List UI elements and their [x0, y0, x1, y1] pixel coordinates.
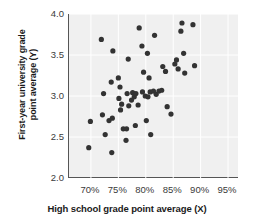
y-axis-label: First-year university grade point averag…: [17, 10, 38, 160]
data-point: [176, 66, 181, 71]
data-point: [133, 123, 138, 128]
data-point: [124, 126, 129, 131]
data-point: [182, 70, 187, 75]
data-point: [146, 75, 151, 80]
y-axis-tick-label: 2.0: [38, 173, 64, 183]
data-point: [148, 132, 153, 137]
data-point: [126, 103, 131, 108]
scatter-plot-figure: First-year university grade point averag…: [0, 0, 254, 223]
data-point: [145, 94, 150, 99]
data-point: [103, 132, 108, 137]
data-point: [101, 91, 106, 96]
x-axis-tick-label: 95%: [210, 184, 244, 195]
data-point: [137, 25, 142, 30]
data-point: [126, 57, 131, 62]
y-axis-tick-label: 3.5: [38, 50, 64, 60]
data-point: [136, 102, 141, 107]
y-axis-tick-label: 4.0: [38, 9, 64, 19]
data-point: [123, 138, 128, 143]
data-point: [168, 111, 173, 116]
y-axis-tick-label: 3.0: [38, 91, 64, 101]
data-point: [125, 91, 130, 96]
data-point: [179, 20, 184, 25]
data-point: [190, 22, 195, 27]
data-point: [181, 51, 186, 56]
x-axis-tick-labels: 70%75%80%85%90%95%: [0, 184, 254, 198]
data-point: [165, 104, 170, 109]
x-axis-label: High school grade point average (X): [0, 203, 254, 214]
data-points: [86, 20, 197, 155]
data-point: [192, 63, 197, 68]
scatter-points-layer: [69, 14, 239, 178]
data-point: [174, 57, 179, 62]
plot-area: [68, 14, 238, 178]
y-axis-tick-label: 2.5: [38, 132, 64, 142]
data-point: [110, 116, 115, 121]
data-point: [145, 51, 150, 56]
data-point: [88, 119, 93, 124]
data-point: [116, 96, 121, 101]
data-point: [116, 75, 121, 80]
data-point: [117, 84, 122, 89]
data-point: [100, 112, 105, 117]
data-point: [109, 150, 114, 155]
gridlines: [69, 14, 239, 178]
data-point: [110, 48, 115, 53]
data-point: [160, 64, 165, 69]
data-point: [159, 88, 164, 93]
data-point: [109, 79, 114, 84]
data-point: [144, 118, 149, 123]
data-point: [141, 70, 146, 75]
data-point: [86, 145, 91, 150]
data-point: [163, 69, 168, 74]
y-axis-label-line1: First-year university grade: [17, 10, 28, 160]
data-point: [178, 29, 183, 34]
data-point: [139, 43, 144, 48]
data-point: [129, 98, 134, 103]
data-point: [152, 33, 157, 38]
data-point: [118, 107, 123, 112]
data-point: [133, 91, 138, 96]
data-point: [99, 37, 104, 42]
data-point: [119, 102, 124, 107]
